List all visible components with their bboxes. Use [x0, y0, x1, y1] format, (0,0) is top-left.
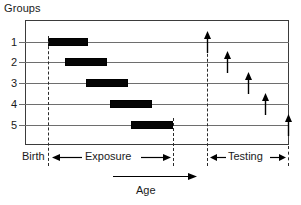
exposure-left-arrow-icon	[52, 153, 82, 162]
exposure-bar-group-2	[65, 58, 107, 66]
testing-right-arrow-icon	[270, 153, 286, 162]
group-tick-1	[19, 42, 26, 43]
exposure-end-reference-line	[173, 118, 174, 166]
exposure-right-arrow-icon	[141, 153, 171, 162]
testing-arrow-group-1	[203, 31, 212, 53]
age-axis-label: Age	[136, 184, 156, 197]
testing-end-reference-line	[288, 146, 289, 166]
age-arrow-icon	[113, 172, 197, 181]
exposure-label: Exposure	[85, 150, 131, 163]
exposure-bar-group-3	[86, 79, 128, 87]
exposure-bar-group-4	[110, 100, 152, 108]
groups-axis-label: Groups	[4, 2, 41, 15]
exposure-bar-group-5	[131, 121, 173, 129]
group-label-4: 4	[4, 98, 17, 110]
birth-reference-line	[48, 36, 49, 166]
group-tick-2	[19, 62, 26, 63]
testing-arrow-group-4	[261, 93, 270, 115]
group-tick-5	[19, 125, 26, 126]
testing-arrow-group-3	[244, 72, 253, 94]
testing-start-reference-line	[207, 34, 208, 166]
testing-label: Testing	[228, 150, 263, 163]
testing-left-arrow-icon	[210, 153, 226, 162]
group-tick-4	[19, 104, 26, 105]
testing-arrow-group-5	[284, 114, 293, 136]
exposure-bar-group-1	[48, 38, 88, 46]
testing-arrow-group-2	[223, 51, 232, 73]
group-row-line-4	[25, 104, 289, 105]
group-label-3: 3	[4, 77, 17, 89]
group-label-1: 1	[4, 36, 17, 48]
exposure-testing-diagram: Groups 1 2 3 4 5	[0, 0, 301, 205]
group-tick-3	[19, 83, 26, 84]
group-label-2: 2	[4, 56, 17, 68]
birth-label: Birth	[22, 150, 45, 163]
group-label-5: 5	[4, 119, 17, 131]
